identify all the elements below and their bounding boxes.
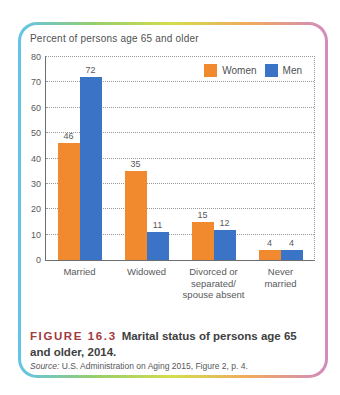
bar-value-label: 72	[75, 65, 107, 75]
figure-card-border: Percent of persons age 65 and older Wome…	[18, 22, 328, 378]
y-axis-label-20: 20	[31, 204, 41, 214]
figure-card: Percent of persons age 65 and older Wome…	[21, 25, 325, 375]
source-text: U.S. Administration on Aging 2015, Figur…	[62, 361, 248, 371]
legend-women-label: Women	[222, 65, 256, 76]
figure-label: FIGURE 16.3	[30, 330, 117, 342]
bar-men-1	[80, 77, 102, 260]
y-axis-label-50: 50	[31, 128, 41, 138]
men-swatch-icon	[265, 64, 278, 77]
bar-value-label: 35	[120, 159, 152, 169]
bar-value-label: 11	[142, 220, 174, 230]
bar-women-3	[192, 222, 214, 260]
source-line: Source: U.S. Administration on Aging 201…	[30, 361, 320, 371]
bar-value-label: 4	[276, 238, 308, 248]
legend-item-women: Women	[204, 64, 256, 77]
legend-item-men: Men	[265, 64, 302, 77]
legend-men-label: Men	[283, 65, 302, 76]
figure-screenshot: Percent of persons age 65 and older Wome…	[0, 0, 340, 395]
y-axis-label-40: 40	[31, 154, 41, 164]
plot-area: Women Men 010203040506070804672Married35…	[45, 56, 315, 261]
y-axis-label-10: 10	[31, 230, 41, 240]
women-swatch-icon	[204, 64, 217, 77]
bar-women-1	[58, 143, 80, 260]
y-axis-label-80: 80	[31, 52, 41, 62]
chart-legend: Women Men	[204, 64, 302, 77]
source-prefix: Source:	[30, 361, 59, 371]
bar-men-3	[214, 230, 236, 260]
bar-value-label: 12	[209, 218, 241, 228]
bar-women-4	[259, 250, 281, 260]
x-axis-label-4: Never married	[241, 266, 320, 289]
y-axis-label-60: 60	[31, 103, 41, 113]
bar-men-4	[281, 250, 303, 260]
bar-men-2	[147, 232, 169, 260]
figure-caption: FIGURE 16.3Marital status of persons age…	[30, 328, 320, 360]
bar-women-2	[125, 171, 147, 260]
y-axis-label-30: 30	[31, 179, 41, 189]
y-axis-label-0: 0	[36, 255, 41, 265]
chart-title: Percent of persons age 65 and older	[30, 33, 199, 44]
y-axis-label-70: 70	[31, 77, 41, 87]
